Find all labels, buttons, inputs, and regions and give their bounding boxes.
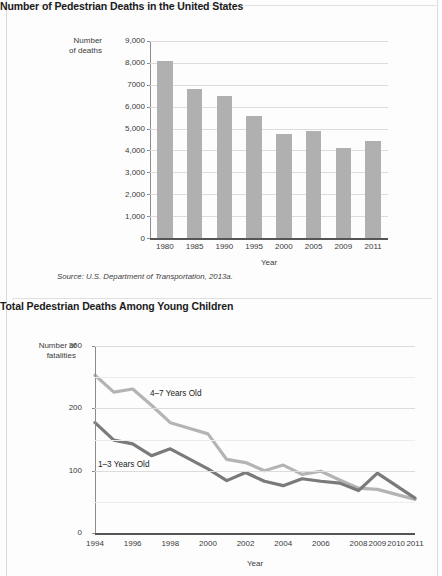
line-xtick-2011: 2011 <box>400 539 430 548</box>
line-ytick-100: 100 <box>58 466 82 475</box>
bar-chart-title: Number of Pedestrian Deaths in the Unite… <box>0 0 442 12</box>
line-chart-plot-area <box>95 346 415 533</box>
bar-y-tick-mark <box>147 238 150 239</box>
bar-ytick-0: 0 <box>108 234 145 243</box>
figure-pedestrian-deaths-bar: Number of Pedestrian Deaths in the Unite… <box>0 0 442 298</box>
line-xtick-2004: 2004 <box>268 539 298 548</box>
line-y-tick-mark <box>92 471 95 472</box>
bar-ytick-2000: 2,000 <box>108 190 145 199</box>
bar-xtick-2011: 2011 <box>358 242 388 251</box>
line-ytick-200: 200 <box>58 403 82 412</box>
bar-y-tick-mark <box>147 172 150 173</box>
bar-gridline <box>150 85 388 86</box>
line-gridline <box>95 471 415 472</box>
line-gridline <box>95 346 415 347</box>
bar-xtick-2009: 2009 <box>329 242 359 251</box>
section-divider <box>12 298 432 299</box>
bar-gridline <box>150 63 388 64</box>
series-label-4-7-years-old: 4–7 Years Old <box>150 389 201 398</box>
bar-2005 <box>306 131 321 238</box>
line-xtick-2000: 2000 <box>193 539 223 548</box>
bar-gridline <box>150 107 388 108</box>
bar-2009 <box>336 148 351 238</box>
bar-y-tick-mark <box>147 107 150 108</box>
line-gridline <box>95 440 415 441</box>
line-chart-x-axis <box>95 533 415 535</box>
bar-1980 <box>157 61 172 238</box>
bar-y-tick-mark <box>147 63 150 64</box>
bar-1990 <box>217 96 232 238</box>
bar-2011 <box>365 141 380 238</box>
line-xtick-1998: 1998 <box>155 539 185 548</box>
bar-xtick-1995: 1995 <box>239 242 269 251</box>
bar-ytick-5000: 5,000 <box>108 124 145 133</box>
bar-xtick-1980: 1980 <box>150 242 180 251</box>
bar-chart-x-axis <box>150 238 388 240</box>
figure-child-pedestrian-deaths-line: Total Pedestrian Deaths Among Young Chil… <box>0 300 442 576</box>
page-canvas: Number of Pedestrian Deaths in the Unite… <box>0 0 442 576</box>
line-y-tick-mark <box>92 533 95 534</box>
bar-y-tick-mark <box>147 85 150 86</box>
bar-ytick-8000: 8,000 <box>108 58 145 67</box>
line-chart-x-axis-title: Year <box>95 559 415 568</box>
line-gridline <box>95 408 415 409</box>
bar-gridline <box>150 216 388 217</box>
bar-ytick-3000: 3,000 <box>108 168 145 177</box>
bar-ytick-6000: 6,000 <box>108 102 145 111</box>
bar-xtick-2005: 2005 <box>299 242 329 251</box>
line-y-tick-mark <box>92 408 95 409</box>
bar-y-axis-title-line1: Number <box>74 36 102 45</box>
bar-y-axis-title-line2: of deaths <box>69 46 102 55</box>
bar-chart-source-note: Source: U.S. Department of Transportatio… <box>57 272 233 281</box>
bar-y-tick-mark <box>147 129 150 130</box>
line-y-tick-mark <box>92 346 95 347</box>
line-y-axis-title-line2: fatalities <box>47 351 76 360</box>
bar-y-tick-mark <box>147 216 150 217</box>
bar-chart-y-axis <box>150 41 151 238</box>
bar-y-tick-mark <box>147 150 150 151</box>
bar-xtick-1990: 1990 <box>210 242 240 251</box>
bar-ytick-9000: 9,000 <box>108 36 145 45</box>
bar-2000 <box>276 134 291 238</box>
line-xtick-1994: 1994 <box>80 539 110 548</box>
bar-ytick-4000: 4,000 <box>108 146 145 155</box>
bar-xtick-2000: 2000 <box>269 242 299 251</box>
bar-1985 <box>187 89 202 238</box>
bar-ytick-7000: 7000 <box>108 80 145 89</box>
line-gridline <box>95 502 415 503</box>
bar-gridline <box>150 129 388 130</box>
line-gridline <box>95 377 415 378</box>
bar-chart-y-axis-title: Number of deaths <box>28 36 102 56</box>
line-ytick-300: 300 <box>58 341 82 350</box>
bar-gridline <box>150 150 388 151</box>
bar-chart-plot-area <box>150 41 388 238</box>
bar-xtick-1985: 1985 <box>180 242 210 251</box>
bar-chart-x-axis-title: Year <box>150 258 388 267</box>
bar-1995 <box>246 116 261 238</box>
bar-y-tick-mark <box>147 194 150 195</box>
bar-gridline <box>150 41 388 42</box>
bar-gridline <box>150 194 388 195</box>
bar-gridline <box>150 172 388 173</box>
bar-ytick-1000: 1,000 <box>108 212 145 221</box>
bar-y-tick-mark <box>147 41 150 42</box>
line-xtick-1996: 1996 <box>118 539 148 548</box>
series-label-1-3-years-old: 1–3 Years Old <box>98 460 149 469</box>
line-ytick-0: 0 <box>58 528 82 537</box>
line-xtick-2006: 2006 <box>306 539 336 548</box>
line-chart-title: Total Pedestrian Deaths Among Young Chil… <box>0 300 442 312</box>
line-xtick-2002: 2002 <box>231 539 261 548</box>
